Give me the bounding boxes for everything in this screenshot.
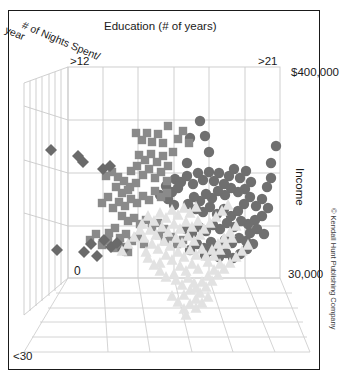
tick-education-min: >12 bbox=[70, 55, 90, 67]
marker-square bbox=[133, 162, 141, 170]
marker-square bbox=[157, 168, 165, 176]
left-wall-grid bbox=[24, 67, 68, 315]
marker-diamond bbox=[91, 250, 103, 262]
floor-grid bbox=[24, 278, 310, 352]
tick-nights-min: <30 bbox=[13, 350, 33, 362]
marker-diamond bbox=[78, 246, 90, 258]
marker-circle bbox=[214, 168, 224, 178]
marker-square bbox=[132, 179, 140, 187]
marker-circle bbox=[259, 229, 269, 239]
marker-square bbox=[164, 122, 172, 130]
marker-circle bbox=[173, 183, 183, 193]
chart-title: Education (# of years) bbox=[104, 20, 217, 32]
marker-circle bbox=[188, 179, 198, 189]
marker-circle bbox=[245, 192, 255, 202]
marker-square bbox=[163, 189, 171, 197]
marker-circle bbox=[182, 158, 192, 168]
tick-income-min: 30,000 bbox=[288, 268, 323, 280]
marker-square bbox=[109, 204, 117, 212]
marker-square bbox=[147, 150, 155, 158]
marker-triangle bbox=[142, 210, 153, 221]
marker-square bbox=[105, 229, 113, 237]
marker-square bbox=[163, 177, 171, 185]
marker-square bbox=[98, 199, 106, 207]
figure-container: Education (# of years) # of Nights Spent… bbox=[0, 0, 356, 385]
marker-square bbox=[159, 152, 167, 160]
marker-circle bbox=[195, 116, 205, 126]
marker-circle bbox=[271, 141, 281, 151]
marker-square bbox=[148, 138, 156, 146]
marker-square bbox=[174, 135, 182, 143]
tick-income-max: $400,000 bbox=[291, 66, 339, 78]
marker-circle bbox=[266, 158, 276, 168]
marker-square bbox=[154, 130, 162, 138]
marker-circle bbox=[204, 167, 214, 177]
copyright-notice: © Kendall Hunt Publishing Company bbox=[329, 208, 338, 329]
marker-square bbox=[179, 127, 187, 135]
marker-square bbox=[185, 139, 193, 147]
marker-circle bbox=[200, 131, 210, 141]
marker-triangle bbox=[154, 207, 165, 218]
marker-circle bbox=[262, 182, 272, 192]
marker-triangle bbox=[166, 290, 177, 301]
marker-circle bbox=[241, 166, 251, 176]
marker-circle bbox=[266, 173, 276, 183]
marker-square bbox=[124, 186, 132, 194]
marker-circle bbox=[229, 164, 239, 174]
tick-education-max: >21 bbox=[258, 55, 278, 67]
data-markers bbox=[45, 116, 281, 320]
marker-circle bbox=[204, 147, 214, 157]
marker-circle bbox=[257, 194, 267, 204]
tick-nights-max: 0 bbox=[74, 265, 81, 278]
marker-square bbox=[159, 139, 167, 147]
marker-square bbox=[169, 148, 177, 156]
marker-square bbox=[145, 165, 153, 173]
income-axis-label: Income bbox=[294, 168, 306, 206]
marker-square bbox=[143, 129, 151, 137]
